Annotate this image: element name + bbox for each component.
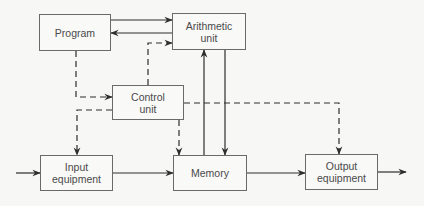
memory-box: Memory: [173, 155, 247, 191]
arithmetic-unit-label: Arithmetic unit: [186, 20, 233, 44]
input-equipment-label: Input equipment: [52, 161, 101, 185]
input-equipment-box: Input equipment: [40, 155, 113, 191]
arrow-control-to-input: [77, 110, 112, 155]
arrow-control-to-arithmetic: [148, 43, 172, 85]
program-box: Program: [39, 14, 111, 51]
memory-label: Memory: [191, 167, 229, 179]
control-unit-box: Control unit: [112, 85, 184, 120]
control-unit-label: Control unit: [131, 91, 165, 115]
output-equipment-label: Output equipment: [317, 160, 366, 184]
arrow-control-to-output: [184, 103, 339, 154]
arrow-program-to-control: [76, 51, 112, 97]
program-label: Program: [55, 27, 95, 39]
computer-organization-diagram: Program Arithmetic unit Control unit Inp…: [0, 0, 424, 206]
output-equipment-box: Output equipment: [305, 154, 378, 190]
arithmetic-unit-box: Arithmetic unit: [172, 13, 246, 50]
